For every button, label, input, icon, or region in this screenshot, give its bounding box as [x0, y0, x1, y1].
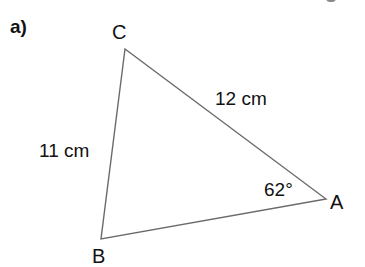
side-bc-length: 11 cm [39, 141, 89, 160]
angle-a-measure: 62° [264, 180, 293, 199]
vertex-label-a: A [330, 192, 343, 212]
triangle-shape [0, 0, 365, 267]
vertex-label-b: B [92, 246, 105, 266]
vertex-label-c: C [112, 22, 126, 42]
triangle-diagram: a) C B A 12 cm 11 cm 62° [0, 0, 365, 267]
side-ac-length: 12 cm [215, 89, 267, 108]
